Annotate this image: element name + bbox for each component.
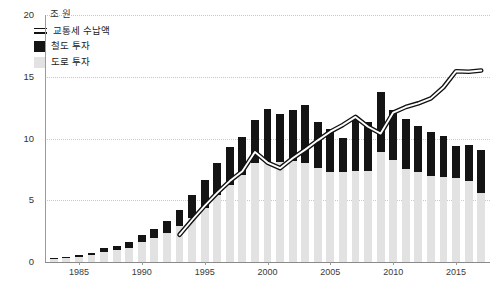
x-tick-mark [205, 262, 206, 265]
x-tick-label: 1990 [132, 268, 152, 277]
y-tick-label: 5 [0, 195, 34, 205]
x-tick-label: 1995 [195, 268, 215, 277]
line-outline [180, 71, 482, 235]
plot-area [45, 15, 490, 262]
x-tick-mark [330, 262, 331, 265]
x-tick-label: 2010 [383, 268, 403, 277]
x-tick-label: 1985 [69, 268, 89, 277]
x-tick-mark [268, 262, 269, 265]
line-series-tax-revenue [45, 15, 490, 262]
x-tick-label: 2000 [257, 268, 277, 277]
x-tick-label: 2015 [446, 268, 466, 277]
y-tick-label: 0 [0, 257, 34, 267]
y-axis-labels: 05101520 [0, 15, 38, 262]
y-tick-label: 10 [0, 134, 34, 144]
x-tick-mark [456, 262, 457, 265]
x-axis-labels: 1985199019952000200520102015 [45, 268, 490, 286]
x-tick-mark [393, 262, 394, 265]
x-tick-mark [79, 262, 80, 265]
x-tick-label: 2005 [320, 268, 340, 277]
y-tick-label: 15 [0, 72, 34, 82]
x-tick-mark [142, 262, 143, 265]
chart-figure: 조 원 교통세 수납액 철도 투자 도로 투자 05101520 1985199… [0, 0, 501, 290]
y-tick-label: 20 [0, 10, 34, 20]
x-axis-ticks [45, 262, 490, 266]
